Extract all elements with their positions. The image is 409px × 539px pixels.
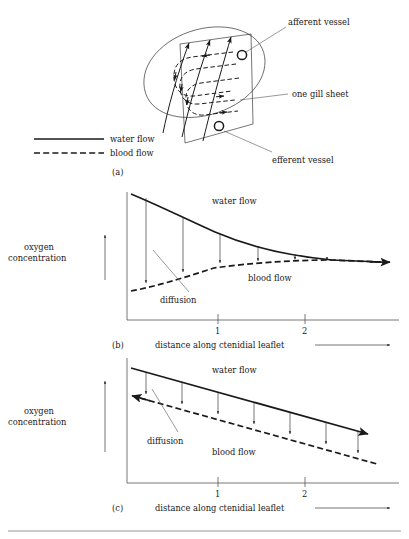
panel-b-diffusion-leader [153, 250, 189, 292]
panel-c-xlabel: distance along ctenidial leaflet [155, 503, 285, 513]
panel-b-label-water-flow: water flow [212, 196, 257, 206]
panel-c-concurrent-chart: oxygen concentration 1 2 diffusion water… [8, 358, 399, 513]
panel-b-ylabel-line2: concentration [8, 253, 67, 263]
panel-c-label-blood-flow: blood flow [212, 447, 256, 457]
label-one-gill-sheet: one gill sheet [292, 89, 349, 99]
panel-b-countercurrent-chart: oxygen concentration 1 2 diffusion water [8, 192, 399, 350]
leader-afferent [246, 27, 286, 52]
panel-letter-b: (b) [112, 340, 124, 350]
panel-c-tick-label-1: 1 [215, 489, 220, 499]
legend-label-blood-flow: blood flow [110, 148, 154, 158]
figure-gill-countercurrent-exchange: afferent vessel one gill sheet efferent … [0, 0, 409, 539]
panel-b-label-diffusion: diffusion [160, 295, 197, 305]
panel-c-label-diffusion: diffusion [147, 436, 184, 446]
panel-a-gill-sheet: afferent vessel one gill sheet efferent … [34, 17, 350, 177]
panel-c-label-water-flow: water flow [212, 365, 257, 375]
panel-b-tick-label-1: 1 [215, 326, 220, 336]
efferent-vessel-node [214, 121, 223, 130]
panel-c-tick-label-2: 2 [302, 489, 307, 499]
panel-c-ylabel-line2: concentration [8, 417, 67, 427]
afferent-vessel-node [237, 50, 246, 59]
blood-flow-paths [174, 52, 239, 115]
panel-b-xlabel: distance along ctenidial leaflet [155, 340, 285, 350]
panel-letter-a: (a) [112, 167, 123, 177]
legend-label-water-flow: water flow [110, 134, 155, 144]
panel-c-ylabel-line1: oxygen [24, 406, 55, 416]
panel-c-series-blood-flow [140, 398, 377, 464]
panel-c-series-water-flow [131, 368, 368, 434]
panel-letter-c: (c) [112, 503, 123, 513]
panel-b-label-blood-flow: blood flow [248, 273, 292, 283]
panel-b-tick-label-2: 2 [302, 326, 307, 336]
panel-b-ylabel-line1: oxygen [24, 242, 55, 252]
label-afferent-vessel: afferent vessel [288, 17, 350, 27]
leader-gill-sheet [240, 94, 288, 100]
panel-c-blood-inflow-arrow [132, 396, 150, 401]
legend: water flow blood flow [34, 134, 155, 158]
panel-c-diffusion-leader [152, 389, 178, 432]
label-efferent-vessel: efferent vessel [272, 155, 334, 165]
leader-efferent [224, 131, 272, 152]
